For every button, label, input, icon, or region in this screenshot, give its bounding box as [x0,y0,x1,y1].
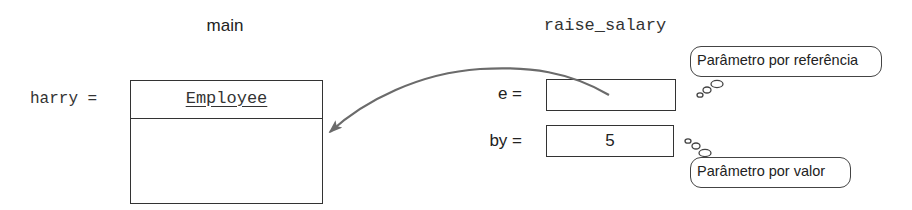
by-value-bubble-tail [685,139,711,157]
reference-arrow [330,68,609,132]
diagram-overlay [0,0,912,210]
by-reference-bubble-tail [697,80,723,97]
